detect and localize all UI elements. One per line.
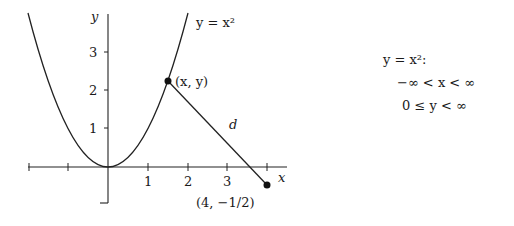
external-point-label: (4, −1/2) xyxy=(196,195,255,210)
y-tick-1: 1 xyxy=(89,121,97,136)
curve-label: y = x² xyxy=(195,15,235,30)
x-axis-label: x xyxy=(278,170,286,185)
domain-text: −∞ < x < ∞ xyxy=(383,71,475,94)
curve-point-label: (x, y) xyxy=(175,74,208,89)
distance-label: d xyxy=(229,117,237,132)
curve-point xyxy=(165,78,172,85)
y-tick-3: 3 xyxy=(89,45,97,60)
y-tick-2: 2 xyxy=(89,83,97,98)
range-text: 0 ≤ y < ∞ xyxy=(383,94,475,117)
x-tick-3: 3 xyxy=(223,174,231,189)
side-title: y = x²: xyxy=(383,48,475,71)
x-tick-1: 1 xyxy=(144,174,152,189)
external-point xyxy=(264,182,271,189)
distance-segment xyxy=(168,81,267,185)
y-axis-label: y xyxy=(90,9,99,24)
side-notes: y = x²: −∞ < x < ∞ 0 ≤ y < ∞ xyxy=(383,48,475,117)
x-tick-2: 2 xyxy=(184,174,192,189)
